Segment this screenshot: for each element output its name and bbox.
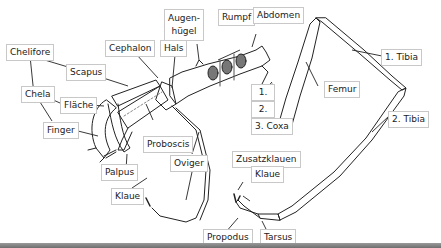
tarsus-shape [258, 214, 280, 220]
label-scapus: Scapus [66, 64, 106, 81]
label-chela: Chela [21, 86, 55, 103]
label-cephalon: Cephalon [105, 40, 155, 57]
label-proboscis: Proboscis [143, 136, 193, 153]
label-coxa-2: 2. [251, 101, 275, 118]
sea-spider-diagram: Chelifore Scapus Chela Fläche Finger Cep… [0, 0, 441, 248]
label-femur: Femur [324, 81, 360, 98]
label-augenhuegel-line1: Augen- [168, 13, 200, 23]
label-klaue-oviger: Klaue [111, 188, 144, 205]
label-coxa-1: 1. [251, 84, 275, 101]
chelifore-shape [112, 80, 160, 106]
label-rumpf: Rumpf [218, 9, 255, 26]
label-tibia-2: 2. Tibia [388, 111, 429, 128]
label-palpus: Palpus [101, 164, 138, 181]
propodus-shape [236, 200, 260, 218]
proboscis-shape [118, 86, 168, 128]
label-augenhuegel: Augen- hügel [164, 9, 204, 41]
label-klaue-leg: Klaue [251, 166, 284, 183]
label-chelifore: Chelifore [6, 44, 54, 61]
femur-shape [268, 18, 320, 134]
bottom-bar [0, 243, 441, 248]
label-oviger: Oviger [170, 155, 208, 172]
label-augenhuegel-line2: hügel [171, 26, 196, 36]
label-abdomen: Abdomen [253, 7, 304, 24]
label-tibia-1: 1. Tibia [381, 49, 422, 66]
label-finger: Finger [43, 122, 79, 139]
label-coxa-3: 3. Coxa [251, 118, 293, 135]
label-hals: Hals [160, 40, 187, 57]
label-flaeche: Fläche [60, 97, 97, 114]
